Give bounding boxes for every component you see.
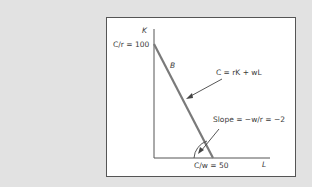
isocost-line <box>154 44 213 158</box>
equation-arrowhead-icon <box>186 93 193 99</box>
isocost-diagram: K L C/r = 100 C/w = 50 B C = rK + wL Slo… <box>0 0 312 187</box>
equation-arrow <box>189 79 222 97</box>
line-label-b: B <box>170 61 175 70</box>
x-axis-label: L <box>262 160 266 169</box>
equation-label: C = rK + wL <box>216 68 262 77</box>
y-axis-label: K <box>142 26 148 35</box>
slope-label: Slope = −w/r = −2 <box>213 115 285 124</box>
x-intercept-label: C/w = 50 <box>194 161 229 170</box>
y-intercept-label: C/r = 100 <box>113 40 149 49</box>
